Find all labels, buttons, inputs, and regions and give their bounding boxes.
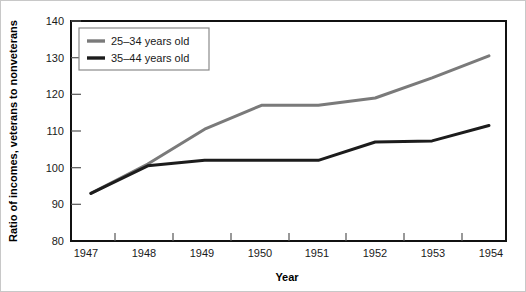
x-tick-label: 1947: [74, 247, 98, 259]
y-tick-label: 90: [52, 198, 64, 210]
y-tick-label: 130: [46, 52, 64, 64]
x-axis-tick-labels: 1947 1948 1949 1950 1951 1952 1953 1954: [74, 247, 503, 259]
y-tick-label: 80: [52, 235, 64, 247]
x-tick-label: 1950: [248, 247, 272, 259]
x-tick-label: 1949: [190, 247, 214, 259]
y-axis-tick-labels: 140 130 120 110 100 90 80: [46, 15, 64, 247]
y-tick-label: 140: [46, 15, 64, 27]
x-axis-title: Year: [275, 271, 299, 283]
chart-figure: 140 130 120 110 100 90 80 1947 1948 1949…: [0, 0, 526, 292]
y-tick-label: 110: [46, 125, 64, 137]
y-tick-label: 120: [46, 88, 64, 100]
x-tick-label: 1951: [305, 247, 329, 259]
x-tick-label: 1952: [363, 247, 387, 259]
legend: 25–34 years old 35–44 years old: [79, 28, 209, 70]
x-tick-label: 1954: [479, 247, 503, 259]
legend-label-35-44: 35–44 years old: [111, 52, 189, 64]
x-tick-label: 1948: [132, 247, 156, 259]
line-chart: 140 130 120 110 100 90 80 1947 1948 1949…: [1, 1, 526, 292]
y-tick-label: 100: [46, 162, 64, 174]
x-tick-label: 1953: [421, 247, 445, 259]
legend-label-25-34: 25–34 years old: [111, 35, 189, 47]
y-axis-title: Ratio of incomes, veterans to nonveteran…: [7, 20, 19, 242]
